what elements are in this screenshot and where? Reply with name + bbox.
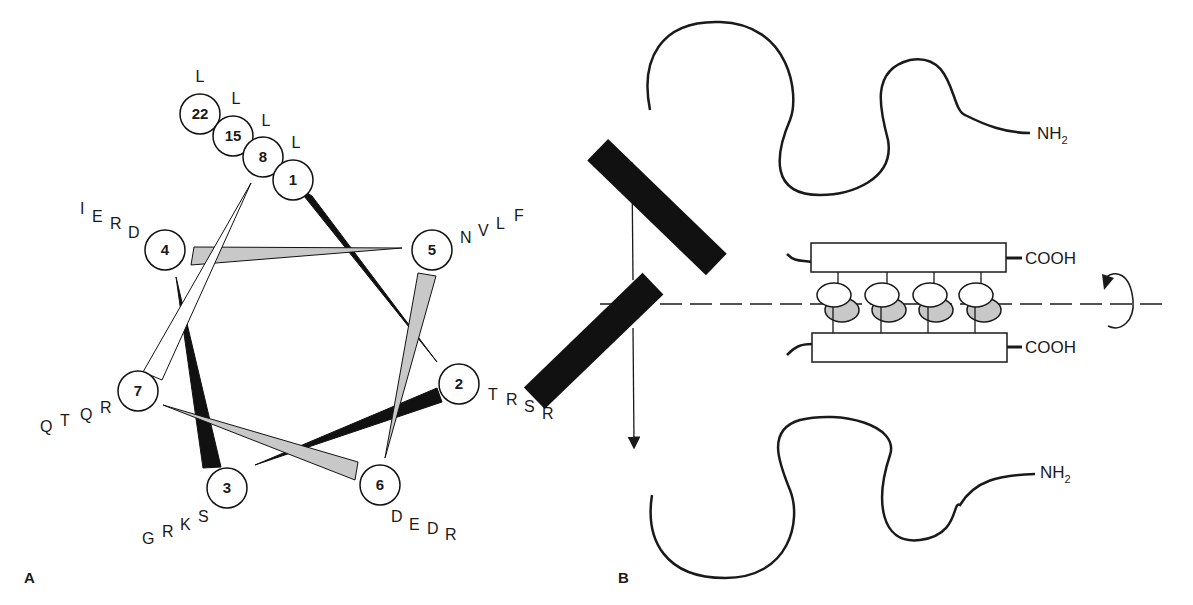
svg-text:D: D: [427, 520, 439, 537]
top-zipper-helix: [811, 243, 1006, 272]
svg-text:S: S: [524, 398, 535, 415]
position-3: 3: [207, 468, 247, 508]
svg-text:E: E: [409, 516, 420, 533]
svg-text:4: 4: [161, 241, 170, 258]
svg-text:3: 3: [223, 479, 231, 496]
svg-text:L: L: [496, 215, 505, 232]
svg-text:R: R: [445, 526, 457, 543]
top-linker: [787, 254, 812, 262]
wedge-7-8: [143, 183, 251, 380]
svg-text:R: R: [506, 391, 518, 408]
position-6: 6: [360, 465, 400, 505]
svg-text:T: T: [60, 412, 70, 429]
top-nh2-label: NH2: [1037, 124, 1068, 146]
svg-text:L: L: [292, 134, 301, 151]
svg-text:R: R: [162, 523, 174, 540]
svg-text:L: L: [232, 90, 241, 107]
svg-text:22: 22: [192, 105, 209, 122]
wedge-2-3: [255, 388, 442, 465]
svg-text:K: K: [180, 516, 191, 533]
svg-text:S: S: [198, 508, 209, 525]
residues-position-7: Q T Q R: [40, 399, 112, 435]
svg-text:Q: Q: [80, 406, 92, 423]
svg-text:L: L: [196, 68, 205, 85]
svg-text:D: D: [391, 508, 403, 525]
bottom-cooh-label: COOH: [1025, 338, 1076, 357]
svg-text:E: E: [92, 208, 103, 225]
position-7: 7: [118, 371, 158, 411]
svg-text:5: 5: [428, 241, 436, 258]
position-4: 4: [145, 230, 185, 270]
svg-text:1: 1: [289, 171, 297, 188]
rotation-arrow-icon: [1102, 274, 1133, 328]
svg-text:G: G: [142, 530, 154, 547]
bottom-chain-loop: [651, 417, 1035, 578]
svg-text:2: 2: [455, 375, 463, 392]
panel-label-a: A: [24, 569, 35, 586]
bottom-dna-binding-helix: [524, 273, 664, 409]
svg-text:D: D: [128, 224, 140, 241]
svg-text:R: R: [100, 399, 112, 416]
svg-text:7: 7: [134, 382, 142, 399]
bottom-zipper-helix: [812, 333, 1007, 362]
position-2: 2: [439, 364, 479, 404]
wedge-6-7: [163, 405, 358, 480]
svg-text:T: T: [488, 386, 498, 403]
residues-position-4: I E R D: [80, 200, 140, 241]
zipper-dimer: COOH NH2 COOH NH2: [524, 22, 1165, 578]
position-5: 5: [412, 230, 452, 270]
svg-text:Q: Q: [40, 418, 52, 435]
svg-text:V: V: [478, 222, 489, 239]
top-nh2-text: NH: [1037, 124, 1062, 143]
top-chain-loop: [648, 22, 1030, 195]
bottom-linker: [787, 344, 812, 355]
svg-text:6: 6: [376, 476, 384, 493]
residues-position-6: D E D R: [391, 508, 457, 543]
helical-wheel: 22 15 8 1 4 5 2 7: [40, 68, 554, 547]
wedge-4-5: [191, 247, 402, 265]
svg-text:15: 15: [225, 127, 242, 144]
panel-label-b: B: [618, 569, 629, 586]
residues-position-5: N V L F: [460, 207, 524, 246]
svg-text:R: R: [110, 215, 122, 232]
wedge-5-6: [385, 273, 436, 458]
residues-position-3: G R K S: [142, 508, 209, 547]
top-dna-binding-helix: [587, 139, 727, 275]
down-arrow-icon: [633, 328, 634, 443]
svg-text:L: L: [262, 112, 271, 129]
position-1: 1: [273, 160, 313, 200]
svg-text:N: N: [460, 229, 472, 246]
svg-text:8: 8: [259, 148, 267, 165]
svg-text:F: F: [514, 207, 524, 224]
top-cooh-label: COOH: [1025, 249, 1076, 268]
figure-canvas: 22 15 8 1 4 5 2 7: [0, 0, 1193, 605]
bottom-nh2-text: NH: [1040, 463, 1065, 482]
bottom-nh2-label: NH2: [1040, 463, 1071, 485]
interface-leucine-pairs: [817, 272, 1001, 333]
svg-text:I: I: [80, 200, 84, 217]
